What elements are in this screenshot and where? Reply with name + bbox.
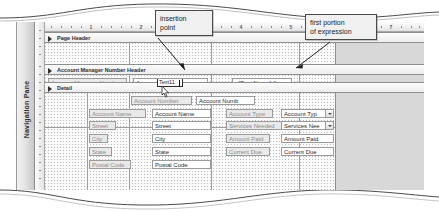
navigation-pane-label: Navigation Pane <box>23 58 30 162</box>
chevron-down-icon[interactable] <box>325 122 333 129</box>
ruler-number-5: 5 <box>290 23 293 31</box>
control-label-account-type[interactable]: Account Type <box>226 109 273 118</box>
section-body-page-header[interactable] <box>45 43 424 64</box>
ruler-number-7: 7 <box>390 23 393 31</box>
callout-insertion-point: insertion point <box>155 10 213 36</box>
section-body-detail[interactable]: Account Number Account Numb Account Name… <box>45 93 424 190</box>
control-textbox-street[interactable]: Street <box>152 121 211 130</box>
section-expand-icon <box>48 86 52 92</box>
control-combobox-services-needed[interactable]: Services Nee <box>281 121 334 130</box>
control-textbox-state[interactable]: State <box>152 147 211 156</box>
control-combobox-account-type[interactable]: Account Typ <box>281 109 334 118</box>
section-label-group-header: Account Manager Number Header <box>57 67 146 73</box>
section-bar-group-header[interactable]: Account Manager Number Header <box>45 64 424 75</box>
control-name-edit-value: Text11 <box>159 80 175 86</box>
text-caret <box>179 80 180 86</box>
callout-first-portion-line1: first portion <box>310 18 372 27</box>
control-label-services-needed[interactable]: Services Needed <box>226 121 283 130</box>
control-textbox-amount-paid[interactable]: Amount Paid <box>281 134 334 143</box>
section-expand-icon <box>48 36 52 42</box>
control-label-current-due[interactable]: Current Due <box>226 147 270 156</box>
navigation-pane[interactable]: Navigation Pane <box>17 22 35 190</box>
chevron-down-icon[interactable] <box>325 110 333 117</box>
ruler-number-4: 4 <box>240 23 243 31</box>
out-of-page-region-detail <box>335 93 424 190</box>
control-label-account-number[interactable]: Account Number <box>131 96 192 105</box>
section-bar-detail[interactable]: Detail <box>45 82 424 93</box>
ruler-number-2: 2 <box>140 23 143 31</box>
ruler-number-1: 1 <box>90 23 93 31</box>
control-textbox-current-due[interactable]: Current Due <box>281 147 334 156</box>
control-label-postal-code[interactable]: Postal Code <box>89 160 131 169</box>
section-label-detail: Detail <box>57 85 72 91</box>
control-textbox-account-number[interactable]: Account Numb <box>196 96 255 105</box>
control-label-state[interactable]: State <box>89 147 112 156</box>
callout-first-portion-of-expression: first portion of expression <box>305 14 377 40</box>
callout-insertion-point-line1: insertion <box>160 14 208 23</box>
control-name-edit-box[interactable]: Text11 <box>157 78 183 87</box>
out-of-page-region-header <box>335 43 424 64</box>
report-design-view: Navigation Pane 1 2 <box>0 0 439 212</box>
control-label-account-name[interactable]: Account Name <box>89 109 146 118</box>
callout-insertion-point-line2: point <box>160 23 208 32</box>
control-textbox-city[interactable]: City <box>152 134 211 143</box>
report-design-surface[interactable]: Page Header Account Manager Number Heade… <box>45 32 424 190</box>
control-textbox-postal-code[interactable]: Postal Code <box>152 160 211 169</box>
section-expand-icon <box>48 68 52 74</box>
control-label-amount-paid[interactable]: Amount Paid <box>226 134 270 143</box>
vertical-ruler <box>35 22 45 190</box>
callout-first-portion-line2: of expression <box>310 27 372 36</box>
control-textbox-account-name[interactable]: Account Name <box>152 109 211 118</box>
control-label-city[interactable]: City <box>89 134 108 143</box>
control-label-street[interactable]: Street <box>89 121 116 130</box>
section-label-page-header: Page Header <box>57 35 90 41</box>
